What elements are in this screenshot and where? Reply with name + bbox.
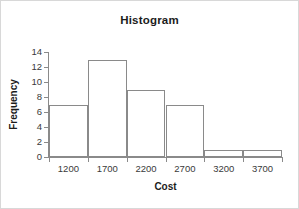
y-tick-label: 2 <box>37 137 42 147</box>
chart-frame: Histogram Frequency 02468101214 12001700… <box>0 0 299 209</box>
histogram-bar <box>127 90 166 158</box>
histogram-bar <box>88 60 127 158</box>
y-tick-label: 6 <box>37 107 42 117</box>
x-tick-label: 3700 <box>252 164 273 174</box>
x-tick-mark <box>282 157 283 162</box>
x-tick-mark <box>88 157 89 162</box>
y-axis-title-label: Frequency <box>8 79 19 130</box>
y-tick-label: 12 <box>31 62 42 72</box>
x-tick-mark <box>204 157 205 162</box>
histogram-bar <box>49 105 88 158</box>
y-axis-title: Frequency <box>6 52 20 157</box>
y-tick-label: 14 <box>31 47 42 57</box>
y-tick-mark <box>44 97 49 98</box>
plot-area: 02468101214 <box>49 52 282 157</box>
histogram-bar <box>243 150 282 158</box>
y-tick-label: 8 <box>37 92 42 102</box>
y-tick-label: 0 <box>37 152 42 162</box>
y-tick-mark <box>44 82 49 83</box>
chart-title: Histogram <box>1 14 298 26</box>
x-tick-mark <box>127 157 128 162</box>
x-tick-mark <box>49 157 50 162</box>
x-tick-label: 1200 <box>58 164 79 174</box>
x-tick-label: 2200 <box>136 164 157 174</box>
histogram-bar <box>166 105 205 158</box>
y-tick-mark <box>44 52 49 53</box>
x-tick-label: 3200 <box>213 164 234 174</box>
x-tick-label: 1700 <box>97 164 118 174</box>
x-axis-title: Cost <box>49 181 282 192</box>
histogram-bar <box>204 150 243 158</box>
x-tick-mark <box>243 157 244 162</box>
x-tick-mark <box>166 157 167 162</box>
x-tick-label: 2700 <box>174 164 195 174</box>
y-tick-label: 10 <box>31 77 42 87</box>
y-tick-label: 4 <box>37 122 42 132</box>
y-tick-mark <box>44 67 49 68</box>
